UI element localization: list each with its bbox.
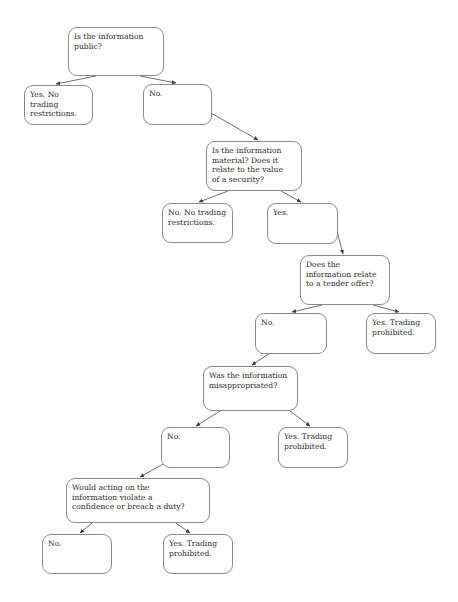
- edge-q-material-to-a-material-no: [199, 191, 228, 202]
- node-a-tender-no[interactable]: No.: [255, 313, 327, 354]
- node-a-misapp-no[interactable]: No.: [161, 427, 230, 468]
- node-a-public-yes[interactable]: Yes. No trading restrictions.: [24, 85, 93, 125]
- node-q-misappropriated[interactable]: Was the information misappropriated?: [203, 366, 298, 411]
- node-label: Yes. Trading prohibited.: [284, 432, 343, 451]
- flowchart-canvas: Is the information public?Yes. No tradin…: [0, 0, 458, 602]
- edge-q-material-to-a-material-yes: [281, 191, 301, 202]
- edge-a-tender-no-to-q-misappropriated: [252, 353, 270, 365]
- node-label: Is the information material? Does it rel…: [212, 146, 297, 184]
- edge-q-public-to-a-public-no: [140, 76, 176, 83]
- node-a-duty-yes[interactable]: Yes. Trading prohibited.: [163, 534, 233, 574]
- edge-q-tender-to-a-tender-yes: [373, 305, 399, 312]
- node-a-tender-yes[interactable]: Yes. Trading prohibited.: [366, 313, 436, 354]
- node-q-material[interactable]: Is the information material? Does it rel…: [206, 141, 302, 191]
- node-q-duty[interactable]: Would acting on the information violate …: [66, 478, 210, 523]
- node-label: No. No trading restrictions.: [168, 208, 228, 227]
- node-a-misapp-yes[interactable]: Yes. Trading prohibited.: [278, 427, 348, 468]
- node-a-material-yes[interactable]: Yes.: [267, 203, 338, 244]
- node-label: Is the information public?: [74, 32, 159, 51]
- node-label: Yes. Trading prohibited.: [372, 318, 431, 337]
- node-label: No.: [48, 539, 107, 549]
- edge-q-tender-to-a-tender-no: [292, 305, 322, 312]
- edge-a-public-no-to-q-material: [211, 113, 258, 140]
- edge-q-duty-to-a-duty-no: [80, 523, 92, 533]
- node-label: No.: [167, 432, 225, 442]
- edge-q-misappropriated-to-a-misapp-no: [196, 411, 220, 426]
- node-label: Yes.: [273, 208, 333, 218]
- node-q-public[interactable]: Is the information public?: [68, 27, 164, 76]
- edge-q-misappropriated-to-a-misapp-yes: [290, 411, 310, 426]
- node-a-public-no[interactable]: No.: [143, 84, 212, 125]
- node-label: Yes. Trading prohibited.: [169, 539, 228, 558]
- node-a-duty-no[interactable]: No.: [42, 534, 112, 574]
- edge-q-duty-to-a-duty-yes: [176, 523, 190, 533]
- node-label: Was the information misappropriated?: [209, 371, 293, 390]
- node-a-material-no[interactable]: No. No trading restrictions.: [162, 203, 233, 243]
- node-label: Does the information relate to a tender …: [306, 260, 385, 289]
- node-label: No.: [261, 318, 322, 328]
- node-label: Yes. No trading restrictions.: [30, 90, 88, 119]
- node-label: Would acting on the information violate …: [72, 483, 205, 512]
- node-label: No.: [149, 89, 207, 99]
- edge-q-public-to-a-public-yes: [56, 76, 96, 84]
- node-q-tender[interactable]: Does the information relate to a tender …: [300, 255, 390, 305]
